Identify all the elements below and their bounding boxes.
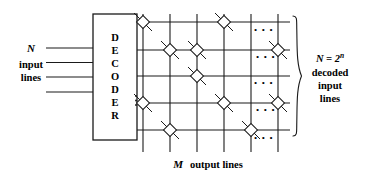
left-label-lines: lines xyxy=(21,72,41,83)
decoder-letter-d2: D xyxy=(111,84,119,95)
vdot-2 xyxy=(135,100,137,102)
bottom-label-text: output lines xyxy=(190,159,243,170)
decoder-letter-d1: D xyxy=(111,32,119,43)
vdot-1 xyxy=(135,95,137,97)
left-label-n: N xyxy=(26,42,36,54)
ellipsis-row4: • • • xyxy=(256,105,276,115)
right-label-exp: n xyxy=(340,51,344,60)
right-label-lines: lines xyxy=(320,93,340,104)
right-label-input: input xyxy=(318,80,342,91)
ellipsis-row3: • • • xyxy=(254,78,274,88)
figure-canvas: N input lines D E C O D E R xyxy=(0,0,368,176)
background xyxy=(0,0,368,176)
left-label-input: input xyxy=(19,59,43,70)
right-label-line1: N = 2n xyxy=(315,51,344,64)
right-label-decoded: decoded xyxy=(312,67,349,78)
decoder-letter-o: O xyxy=(111,71,119,82)
bottom-label-m: M xyxy=(172,158,184,170)
bottom-label-group: M output lines xyxy=(172,158,243,170)
decoder-matrix-diagram: N input lines D E C O D E R xyxy=(0,0,368,176)
decoder-letter-e2: E xyxy=(111,97,118,108)
decoder-letter-c: C xyxy=(111,58,119,69)
vdot-3 xyxy=(135,104,137,106)
ellipsis-row5: • • • xyxy=(254,133,274,143)
decoder-label: D E C O D E R xyxy=(111,32,119,121)
right-label-n: N = 2 xyxy=(315,53,341,64)
ellipsis-row2: • • • xyxy=(256,52,276,62)
decoder-letter-r: R xyxy=(111,110,119,121)
ellipsis-row1: • • • xyxy=(254,25,274,35)
decoder-letter-e1: E xyxy=(111,45,118,56)
